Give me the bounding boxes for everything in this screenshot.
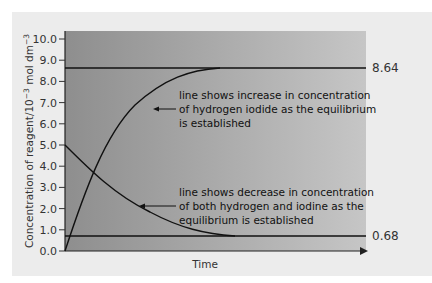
y-tick-label: 6.0	[40, 118, 58, 131]
y-tick-label: 10.0	[33, 33, 58, 46]
y-tick-label: 3.0	[40, 181, 58, 194]
y-tick-label: 2.0	[40, 203, 58, 216]
chart: 0.01.02.03.04.05.06.07.08.09.010.0 8.64 …	[0, 0, 432, 283]
y-tick-label: 9.0	[40, 54, 58, 67]
y-tick-label: 0.0	[40, 245, 58, 258]
y-tick-label: 4.0	[40, 160, 58, 173]
y-tick-label: 1.0	[40, 224, 58, 237]
equilibrium-value-high: 8.64	[372, 61, 399, 75]
y-axis-label: Concentration of reagent/10−3 mol dm−3	[22, 34, 35, 248]
y-tick-label: 7.0	[40, 97, 58, 110]
y-ticks: 0.01.02.03.04.05.06.07.08.09.010.0	[33, 33, 66, 258]
y-tick-label: 5.0	[40, 139, 58, 152]
x-axis-label: Time	[191, 258, 218, 270]
y-tick-label: 8.0	[40, 75, 58, 88]
equilibrium-value-low: 0.68	[372, 229, 399, 243]
